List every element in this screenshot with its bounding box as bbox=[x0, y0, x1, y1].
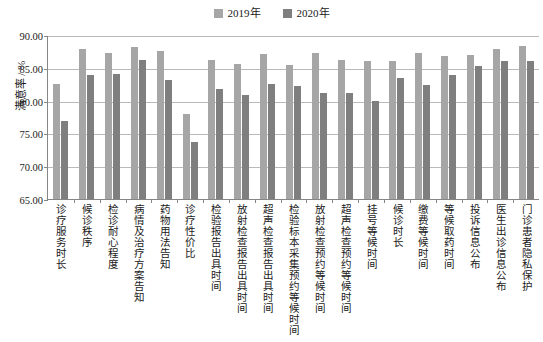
bar-2020年-超声检查预约等候时间 bbox=[346, 93, 353, 199]
x-axis-label: 诊疗性价比 bbox=[184, 204, 195, 259]
y-tick-label: 75.00 bbox=[19, 129, 43, 140]
y-tick-label: 70.00 bbox=[19, 162, 43, 173]
x-axis-label: 挂号等候时间 bbox=[365, 204, 376, 270]
x-tick-mark bbox=[358, 199, 359, 203]
bar-2020年-门诊患者隐私保护 bbox=[527, 61, 534, 199]
x-tick-mark bbox=[436, 199, 437, 203]
x-tick-mark bbox=[281, 199, 282, 203]
bar-group bbox=[74, 36, 100, 199]
bar-2019年-投诉信息公布 bbox=[467, 55, 474, 199]
bar-2019年-放射检查预约等候时间 bbox=[312, 53, 319, 199]
bar-group bbox=[203, 36, 229, 199]
x-axis-label-slot: 医生出诊信息公布 bbox=[487, 204, 513, 340]
x-axis-label-slot: 超声检查报告出具时间 bbox=[254, 204, 280, 340]
x-tick-mark bbox=[177, 199, 178, 203]
x-axis-label-slot: 放射检查预约等候时间 bbox=[306, 204, 332, 340]
bar-2020年-药物用法告知 bbox=[165, 80, 172, 199]
bar-2020年-诊疗性价比 bbox=[191, 142, 198, 199]
legend-entry-2020: 2020年 bbox=[283, 8, 330, 19]
x-tick-mark bbox=[151, 199, 152, 203]
bar-2019年-诊疗服务时长 bbox=[53, 84, 60, 199]
x-tick-mark bbox=[462, 199, 463, 203]
x-tick-mark bbox=[487, 199, 488, 203]
x-axis-label-slot: 药物用法告知 bbox=[151, 204, 177, 340]
bar-2020年-挂号等候时间 bbox=[372, 101, 379, 199]
bar-2019年-门诊患者隐私保护 bbox=[519, 46, 526, 199]
bar-group bbox=[281, 36, 307, 199]
bar-group bbox=[229, 36, 255, 199]
bar-2019年-候诊时长 bbox=[389, 61, 396, 199]
bar-group bbox=[177, 36, 203, 199]
bar-2019年-病情及治疗方案告知 bbox=[131, 47, 138, 199]
x-tick-mark bbox=[74, 199, 75, 203]
x-tick-mark bbox=[410, 199, 411, 203]
bar-2020年-检验报告出具时间 bbox=[216, 89, 223, 199]
bar-2019年-候诊秩序 bbox=[79, 49, 86, 199]
x-axis-label: 医生出诊信息公布 bbox=[495, 204, 506, 292]
bar-group bbox=[436, 36, 462, 199]
bar-2019年-检验报告出具时间 bbox=[208, 60, 215, 199]
bar-2019年-检诊耐心程度 bbox=[105, 53, 112, 199]
bar-2020年-候诊秩序 bbox=[87, 75, 94, 199]
x-axis-label-slot: 检诊耐心程度 bbox=[99, 204, 125, 340]
bar-2019年-医生出诊信息公布 bbox=[493, 49, 500, 199]
bar-2019年-放射检查报告出具时间 bbox=[234, 64, 241, 199]
x-axis-label: 诊疗服务时长 bbox=[54, 204, 65, 270]
x-tick-mark bbox=[332, 199, 333, 203]
x-axis-label: 检验标本采集预约等候时间 bbox=[287, 204, 298, 336]
legend-label-2019: 2019年 bbox=[228, 8, 261, 19]
x-tick-mark bbox=[384, 199, 385, 203]
x-axis-label-slot: 候诊秩序 bbox=[73, 204, 99, 340]
x-tick-mark bbox=[100, 199, 101, 203]
bar-group bbox=[410, 36, 436, 199]
x-axis-label-slot: 超声检查预约等候时间 bbox=[332, 204, 358, 340]
x-axis-label: 检诊耐心程度 bbox=[106, 204, 117, 270]
x-axis-label-slot: 挂号等候时间 bbox=[358, 204, 384, 340]
x-axis-label-slot: 诊疗性价比 bbox=[176, 204, 202, 340]
bar-2020年-检诊耐心程度 bbox=[113, 74, 120, 199]
bar-2019年-超声检查报告出具时间 bbox=[260, 54, 267, 199]
bar-2019年-诊疗性价比 bbox=[183, 114, 190, 199]
bar-2020年-检验标本采集预约等候时间 bbox=[294, 86, 301, 199]
x-axis-label-slot: 诊疗服务时长 bbox=[47, 204, 73, 340]
plot-area-wrapper: 65.0070.0075.0080.0085.0090.00 bbox=[47, 36, 539, 200]
bar-2019年-挂号等候时间 bbox=[364, 61, 371, 199]
x-axis-label-slot: 检验标本采集预约等候时间 bbox=[280, 204, 306, 340]
y-tick-label: 85.00 bbox=[19, 63, 43, 74]
y-axis-title: 满意率 / % bbox=[12, 46, 28, 126]
bar-chart: 2019年 2020年 满意率 / % 65.0070.0075.0080.00… bbox=[0, 0, 543, 342]
x-tick-mark bbox=[255, 199, 256, 203]
bar-2020年-投诉信息公布 bbox=[475, 66, 482, 199]
legend-entry-2019: 2019年 bbox=[214, 8, 261, 19]
bar-group bbox=[48, 36, 74, 199]
x-axis-label-slot: 放射检查报告出具时间 bbox=[228, 204, 254, 340]
bar-2019年-检验标本采集预约等候时间 bbox=[286, 65, 293, 199]
x-tick-mark bbox=[306, 199, 307, 203]
bar-group bbox=[332, 36, 358, 199]
x-axis-label: 投诉信息公布 bbox=[469, 204, 480, 270]
x-axis-label: 等候取药时间 bbox=[443, 204, 454, 270]
bar-2019年-超声检查预约等候时间 bbox=[338, 60, 345, 199]
y-tick-label: 90.00 bbox=[19, 31, 43, 42]
legend-label-2020: 2020年 bbox=[297, 8, 330, 19]
bar-2020年-诊疗服务时长 bbox=[61, 121, 68, 199]
legend-swatch-2020 bbox=[283, 9, 292, 18]
bar-2019年-等候取药时间 bbox=[441, 56, 448, 199]
x-axis-label: 超声检查报告出具时间 bbox=[262, 204, 273, 314]
x-axis-label-slot: 候诊时长 bbox=[384, 204, 410, 340]
bar-2020年-超声检查报告出具时间 bbox=[268, 84, 275, 199]
x-axis-label: 超声检查预约等候时间 bbox=[339, 204, 350, 314]
y-tick-label: 80.00 bbox=[19, 96, 43, 107]
x-axis-label: 候诊秩序 bbox=[80, 204, 91, 248]
bar-2020年-放射检查预约等候时间 bbox=[320, 93, 327, 199]
x-axis-label: 门诊患者隐私保护 bbox=[520, 204, 531, 292]
x-axis-label: 检验报告出具时间 bbox=[210, 204, 221, 292]
bar-group bbox=[462, 36, 488, 199]
bar-group bbox=[384, 36, 410, 199]
bar-2019年-药物用法告知 bbox=[157, 51, 164, 199]
bar-2020年-等候取药时间 bbox=[449, 75, 456, 199]
x-axis-label-slot: 等候取药时间 bbox=[435, 204, 461, 340]
x-axis-labels: 诊疗服务时长候诊秩序检诊耐心程度病情及治疗方案告知药物用法告知诊疗性价比检验报告… bbox=[47, 204, 539, 340]
bar-2020年-缴费等候时间 bbox=[423, 85, 430, 199]
bar-2020年-医生出诊信息公布 bbox=[501, 61, 508, 199]
